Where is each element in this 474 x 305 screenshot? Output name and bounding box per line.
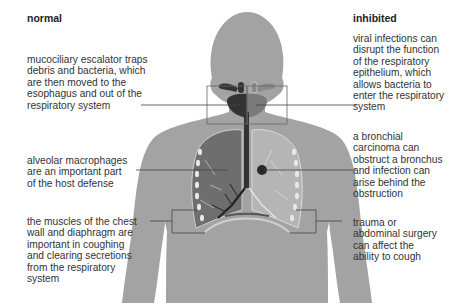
note-chest-muscles: the muscles of the chest wall and diaphr…	[27, 216, 177, 284]
heading-inhibited: inhibited	[353, 12, 397, 24]
note-bronchial-carcinoma: a bronchial carcinoma can obstruct a bro…	[353, 131, 473, 199]
note-viral-infections: viral infections can disrupt the functio…	[353, 33, 473, 113]
note-trauma-surgery: trauma or abdominal surgery can affect t…	[353, 217, 473, 263]
note-mucociliary-escalator: mucociliary escalator traps debris and b…	[27, 54, 192, 111]
heading-normal: normal	[27, 12, 62, 24]
note-alveolar-macrophages: alveolar macrophages are an important pa…	[27, 155, 167, 189]
